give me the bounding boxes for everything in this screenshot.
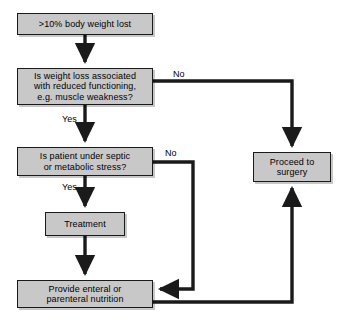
node-weight-loss-label: >10% body weight lost bbox=[36, 19, 134, 30]
edge-label-no-septic: No bbox=[165, 148, 177, 158]
edge-label-yes-septic: Yes bbox=[62, 182, 77, 192]
node-proceed-to-surgery-label: Proceed to surgery bbox=[267, 157, 318, 178]
node-reduced-functioning-label: Is weight loss associated with reduced f… bbox=[31, 71, 139, 103]
edge-label-yes-functioning: Yes bbox=[62, 114, 77, 124]
node-nutrition-label: Provide enteral or parenteral nutrition bbox=[43, 284, 126, 305]
node-proceed-to-surgery: Proceed to surgery bbox=[253, 152, 331, 182]
node-weight-loss: >10% body weight lost bbox=[17, 13, 153, 35]
node-treatment-label: Treatment bbox=[61, 219, 109, 230]
edge-septic-no-to-nutrition bbox=[153, 162, 193, 289]
edge-functioning-no-to-surgery bbox=[153, 81, 292, 146]
node-septic-stress-label: Is patient under septic or metabolic str… bbox=[37, 151, 133, 172]
node-nutrition: Provide enteral or parenteral nutrition bbox=[17, 280, 153, 308]
node-septic-stress: Is patient under septic or metabolic str… bbox=[17, 147, 153, 176]
flowchart-diagram: >10% body weight lost Is weight loss ass… bbox=[0, 0, 348, 325]
node-reduced-functioning: Is weight loss associated with reduced f… bbox=[17, 68, 153, 105]
node-treatment: Treatment bbox=[45, 212, 125, 236]
edge-label-no-functioning: No bbox=[173, 69, 185, 79]
edge-nutrition-to-surgery bbox=[153, 188, 292, 302]
